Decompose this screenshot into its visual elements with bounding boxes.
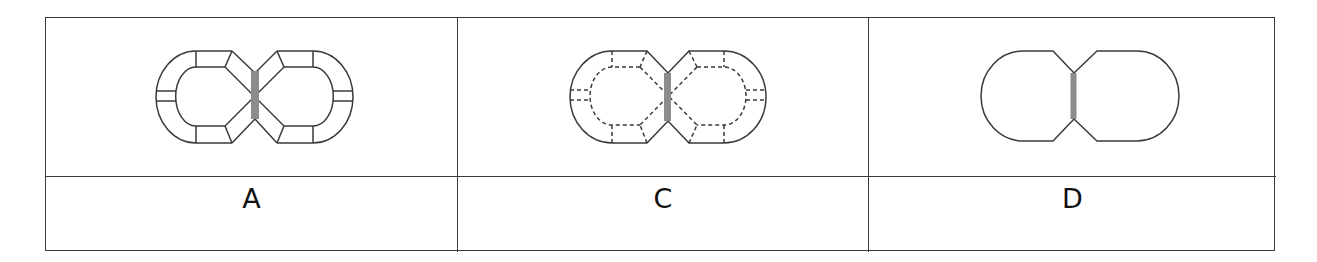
panel-a-figure	[46, 18, 458, 177]
track-d-diagram	[869, 18, 1276, 177]
track-c-diagram	[458, 18, 869, 177]
panel-c-label: C	[458, 177, 869, 252]
crossing-bar-c	[664, 73, 671, 121]
panel-d-label: D	[869, 177, 1276, 252]
crossing-bar-d	[1071, 73, 1077, 119]
panel-a-label: A	[46, 177, 458, 252]
figure-table: A C D	[45, 17, 1275, 251]
panel-c-figure	[458, 18, 869, 177]
crossing-bar-a	[251, 71, 259, 119]
panel-d-figure	[869, 18, 1276, 177]
track-a-diagram	[46, 18, 458, 177]
